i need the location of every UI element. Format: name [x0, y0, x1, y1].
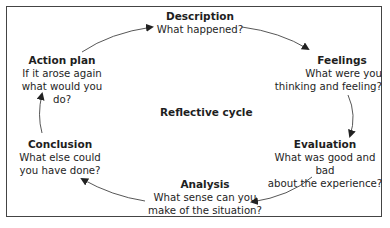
- stage-title: Evaluation: [266, 138, 384, 151]
- stage-feelings: Feelings What were you thinking and feel…: [272, 54, 382, 93]
- stage-question: If it arose again what would you do?: [12, 67, 112, 106]
- stage-title: Conclusion: [14, 138, 106, 151]
- arrow-description-to-feelings: [242, 27, 308, 49]
- stage-analysis: Analysis What sense can you make of the …: [145, 178, 265, 217]
- stage-title: Action plan: [12, 54, 112, 67]
- stage-description: Description What happened?: [155, 10, 245, 36]
- stage-action-plan: Action plan If it arose again what would…: [12, 54, 112, 106]
- stage-title: Analysis: [145, 178, 265, 191]
- center-label: Reflective cycle: [160, 106, 253, 118]
- arrow-action-to-description: [82, 27, 152, 52]
- stage-title: Feelings: [272, 54, 382, 67]
- stage-question: What was good and bad about the experien…: [266, 151, 384, 190]
- stage-title: Description: [155, 10, 245, 23]
- stage-question: What happened?: [155, 23, 245, 36]
- stage-question: What were you thinking and feeling?: [272, 67, 382, 93]
- arrow-feelings-to-evaluation: [348, 95, 353, 136]
- stage-evaluation: Evaluation What was good and bad about t…: [266, 138, 384, 190]
- stage-question: What sense can you make of the situation…: [145, 191, 265, 217]
- stage-conclusion: Conclusion What else could you have done…: [14, 138, 106, 177]
- arrow-analysis-to-conclusion: [82, 179, 145, 201]
- stage-question: What else could you have done?: [14, 151, 106, 177]
